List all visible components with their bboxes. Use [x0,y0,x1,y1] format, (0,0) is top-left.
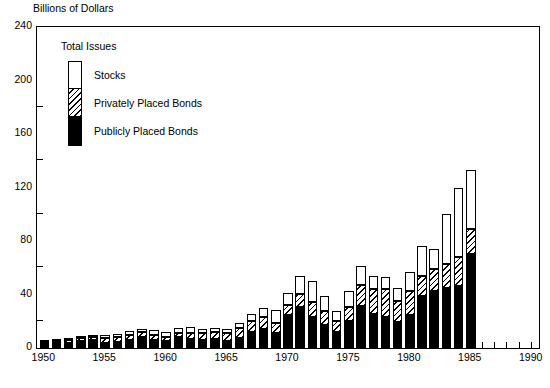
bar-segment-private-bonds [198,333,208,340]
bar [137,329,147,348]
legend-swatch-public-bonds [69,117,81,145]
bar-segment-private-bonds [320,311,330,324]
bar-segment-public-bonds [210,339,220,348]
bar [320,296,330,348]
bar-segment-public-bonds [271,333,281,348]
x-axis-tick-mark [506,342,507,348]
bar [210,328,220,348]
bar-segment-stocks [222,329,232,334]
bar [76,337,86,348]
bar-segment-stocks [271,310,281,323]
bar-segment-private-bonds [259,317,269,329]
bar [283,293,293,348]
bar-segment-private-bonds [393,301,403,322]
x-axis-tick-mark [287,342,288,348]
y-axis-tick-label: 200 [0,74,32,84]
bar-segment-private-bonds [186,333,196,339]
bar-segment-public-bonds [393,322,403,348]
bar-segment-public-bonds [429,291,439,348]
x-axis-tick-label: 1955 [81,352,127,363]
bar [369,276,379,348]
x-axis-tick-label: 1975 [325,352,371,363]
bar [442,214,452,348]
bar-segment-private-bonds [174,333,184,337]
bar-segment-stocks [210,328,220,332]
bar-segment-public-bonds [52,342,62,348]
bar [344,291,354,349]
y-axis-tick-label: 0 [0,341,32,351]
y-axis-tick-mark [37,213,43,214]
bar-segment-public-bonds [442,288,452,348]
legend-items: Stocks Privately Placed Bonds Publicly P… [94,61,274,145]
bar-segment-stocks [186,327,196,333]
bar-segment-public-bonds [125,340,135,348]
bar-segment-private-bonds [88,337,98,340]
bar [64,339,74,348]
bar-segment-stocks [344,291,354,308]
bar [466,170,476,348]
bar [113,334,123,348]
bar-segment-private-bonds [161,337,171,341]
x-axis-tick-mark [165,342,166,348]
y-axis-tick-mark [37,266,43,267]
bar-segment-stocks [149,330,159,335]
bar [174,328,184,348]
bar [356,266,366,348]
bar-segment-private-bonds [466,229,476,254]
bar-segment-stocks [161,332,171,336]
x-axis-tick-mark [494,342,495,348]
y-axis-tick-mark [37,159,43,160]
bar-segment-private-bonds [442,264,452,288]
bar-segment-public-bonds [356,306,366,348]
bar-segment-stocks [405,272,415,291]
bar-segment-stocks [442,214,452,263]
bar [454,188,464,349]
bar-segment-public-bonds [113,342,123,348]
bar-segment-stocks [137,329,147,332]
bar-segment-public-bonds [235,338,245,348]
x-axis-tick-label: 1990 [508,352,550,363]
bar-segment-private-bonds [356,285,366,306]
bar-segment-stocks [198,329,208,333]
bar-segment-private-bonds [381,289,391,317]
bar-segment-public-bonds [40,344,50,348]
bar [308,281,318,348]
bar-segment-public-bonds [332,332,342,348]
bar-segment-private-bonds [137,332,147,337]
legend-item-stocks: Stocks [94,61,274,89]
bar [222,329,232,348]
bar-segment-public-bonds [137,337,147,348]
x-axis-tick-mark [104,342,105,348]
bar-segment-stocks [295,276,305,294]
legend-item-public-bonds: Publicly Placed Bonds [94,117,274,145]
bar-segment-stocks [393,288,403,301]
bar-segment-private-bonds [235,328,245,337]
bar-segment-stocks [381,277,391,289]
bar-segment-private-bonds [149,335,159,340]
bar-segment-public-bonds [417,296,427,348]
bar-segment-private-bonds [100,338,110,342]
bar-segment-stocks [113,334,123,337]
bar-segment-public-bonds [320,325,330,348]
bar-segment-stocks [454,188,464,258]
y-axis-tick-label: 240 [0,20,32,30]
bar [429,249,439,348]
bar-segment-private-bonds [271,323,281,332]
bar [100,335,110,348]
bar-segment-private-bonds [76,338,86,341]
x-axis-tick-mark [43,342,44,348]
chart-legend: Total Issues Stocks Privately Placed Bon… [58,40,268,59]
bar [186,327,196,348]
bar [417,246,427,348]
x-axis-tick-mark [348,342,349,348]
bar-segment-stocks [332,311,342,322]
bar [381,277,391,348]
chart-figure: Billions of Dollars 04080120160200240 19… [0,0,550,388]
bar-segment-stocks [283,293,293,305]
bar-segment-stocks [100,335,110,338]
bar-segment-stocks [320,296,330,311]
bar [393,288,403,348]
bar [40,341,50,348]
bar-segment-public-bonds [308,317,318,348]
bar-segment-public-bonds [161,341,171,348]
